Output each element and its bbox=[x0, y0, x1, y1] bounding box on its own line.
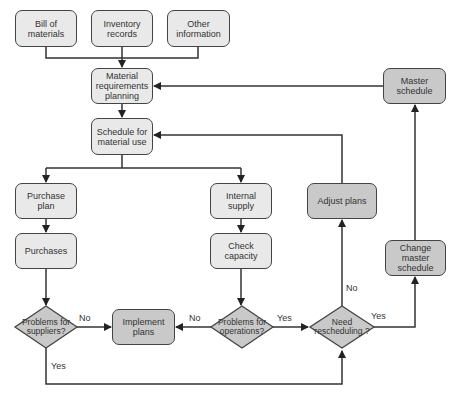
node-implement-plans: Implement plans bbox=[112, 309, 175, 345]
node-other-information: Other information bbox=[167, 10, 230, 47]
node-bill-of-materials: Bill of materials bbox=[15, 10, 77, 47]
edge-label-suppliers-no: No bbox=[79, 313, 91, 323]
node-schedule-material-use: Schedule for material use bbox=[91, 118, 153, 155]
node-mrp: Material requirements planning bbox=[91, 68, 153, 104]
edge-label-operations-no: No bbox=[189, 313, 201, 323]
node-change-master-schedule: Change master schedule bbox=[385, 240, 446, 276]
node-master-schedule: Master schedule bbox=[383, 68, 446, 104]
edge-label-operations-yes: Yes bbox=[277, 313, 292, 323]
edge-label-rescheduling-yes: Yes bbox=[371, 311, 386, 321]
decision-problems-operations: Problems for operations? bbox=[213, 314, 271, 340]
edge-label-rescheduling-no: No bbox=[346, 283, 358, 293]
node-internal-supply: Internal supply bbox=[210, 183, 272, 219]
flowchart: Bill of materials Inventory records Othe… bbox=[0, 0, 460, 398]
node-inventory-records: Inventory records bbox=[91, 10, 153, 47]
node-purchases: Purchases bbox=[15, 233, 77, 269]
node-purchase-plan: Purchase plan bbox=[15, 183, 77, 219]
node-check-capacity: Check capacity bbox=[210, 233, 272, 269]
decision-problems-suppliers: Problems for suppliers? bbox=[18, 314, 74, 340]
decision-need-rescheduling: Need rescheduling ? bbox=[311, 314, 373, 340]
node-adjust-plans: Adjust plans bbox=[307, 183, 377, 219]
edge-label-suppliers-yes: Yes bbox=[51, 361, 66, 371]
